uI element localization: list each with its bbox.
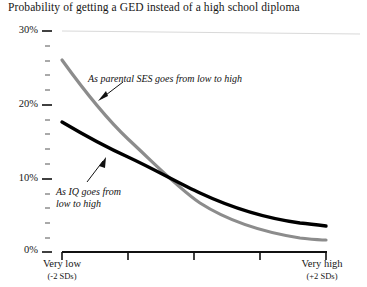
iq-annotation-arrow [87, 157, 106, 182]
chart-plot-svg [0, 0, 367, 287]
ses-annotation-arrow [98, 82, 123, 101]
y-axis-minor-ticks [45, 46, 50, 238]
gridline-30 [62, 31, 360, 34]
x-axis-ticks [62, 252, 326, 260]
y-axis-major-ticks [42, 31, 52, 252]
series-line-ses [62, 60, 326, 240]
chart-container: Probability of getting a GED instead of … [0, 0, 367, 287]
series-line-iq [62, 122, 326, 226]
